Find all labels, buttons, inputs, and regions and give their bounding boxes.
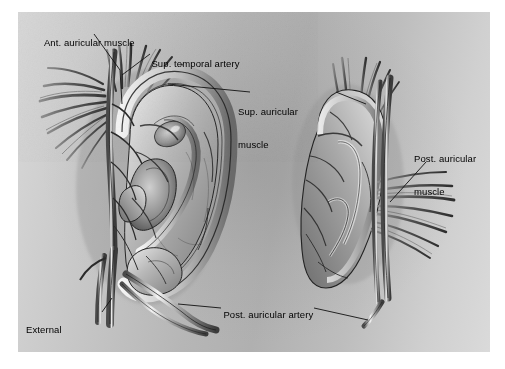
label-ant-auricular-muscle: Ant. auricular muscle <box>28 26 135 59</box>
leader-post-auricular-artery-right <box>314 308 368 320</box>
illustration-stage: Ant. auricular muscle Sup. temporal arte… <box>0 0 505 369</box>
label-sup-temporal-artery: Sup. temporal artery <box>135 47 240 80</box>
illustration-panel: Ant. auricular muscle Sup. temporal arte… <box>18 12 490 352</box>
label-sup-auricular-muscle: Sup. auricular muscle <box>238 84 298 172</box>
label-post-auricular-muscle: Post. auricular muscle <box>414 131 476 219</box>
label-external-carotid-artery: External carotid artery <box>26 302 83 352</box>
label-post-auricular-artery: Post. auricular artery <box>207 298 313 331</box>
